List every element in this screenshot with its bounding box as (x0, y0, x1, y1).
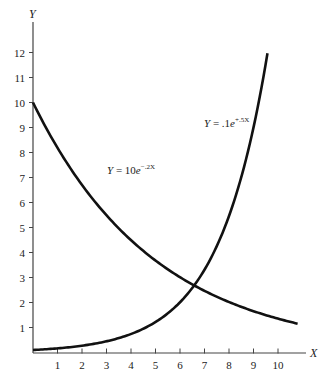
decay-curve (33, 103, 298, 324)
x-tick-label: 9 (251, 359, 257, 371)
y-tick-label: 10 (14, 97, 26, 109)
x-ticks: 12345678910 (55, 349, 284, 371)
y-tick-label: 7 (20, 172, 26, 184)
x-tick-label: 7 (202, 359, 208, 371)
x-tick-label: 6 (177, 359, 183, 371)
growth-curve-label: Y = .1e+.5X (204, 116, 249, 129)
x-tick-label: 4 (128, 359, 134, 371)
growth-curve (33, 53, 267, 350)
x-tick-label: 3 (104, 359, 110, 371)
x-tick-label: 2 (79, 359, 85, 371)
y-tick-label: 11 (14, 72, 25, 84)
y-tick-label: 3 (20, 272, 26, 284)
y-tick-label: 1 (20, 322, 26, 334)
y-tick-label: 2 (20, 297, 26, 309)
curves (33, 53, 298, 350)
exponential-chart: 123456789101112 12345678910 Y X Y = 10e−… (0, 0, 327, 389)
y-tick-label: 12 (14, 47, 25, 59)
y-tick-label: 6 (20, 197, 26, 209)
x-axis-title: X (309, 346, 318, 360)
x-tick-label: 1 (55, 359, 61, 371)
y-ticks: 123456789101112 (14, 47, 33, 334)
y-tick-label: 9 (20, 122, 26, 134)
decay-curve-label: Y = 10e−.2X (107, 163, 155, 176)
y-tick-label: 4 (20, 247, 26, 259)
y-tick-label: 8 (20, 147, 26, 159)
x-tick-label: 5 (153, 359, 159, 371)
y-tick-label: 5 (20, 222, 26, 234)
y-axis-title: Y (29, 7, 37, 21)
x-tick-label: 10 (273, 359, 285, 371)
x-tick-label: 8 (226, 359, 232, 371)
